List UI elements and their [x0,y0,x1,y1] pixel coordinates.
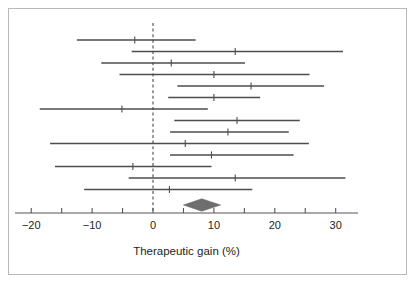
study-row [132,48,343,55]
study-row [168,94,260,101]
study-row [170,128,289,135]
study-row [77,36,196,43]
x-axis-tick-label: 20 [269,219,281,231]
x-axis-tick-label: 30 [330,219,342,231]
summary-diamond-group [183,199,220,211]
forest-plot-figure: −20−100102030 Therapeutic gain (%) [0,0,416,284]
study-row [177,82,324,89]
forest-plot-canvas: −20−100102030 Therapeutic gain (%) [9,9,406,274]
plot-frame: −20−100102030 Therapeutic gain (%) [8,8,407,275]
x-axis-tick-label: −10 [83,219,102,231]
study-row [170,151,294,158]
x-axis-tick-labels: −20−100102030 [22,219,342,231]
x-axis-tick-label: 0 [150,219,156,231]
study-row [55,163,212,170]
study-row [120,71,310,78]
study-row [174,117,299,124]
summary-effect-diamond [183,199,220,211]
study-row [50,140,309,147]
study-row [101,59,245,66]
x-axis-tick-label: −20 [22,219,41,231]
study-row [129,174,346,181]
confidence-interval-rows [40,36,346,193]
study-row [84,186,252,193]
study-row [40,105,208,112]
x-axis-label: Therapeutic gain (%) [133,245,240,257]
x-axis-group [15,208,358,213]
x-axis-tick-label: 10 [208,219,220,231]
